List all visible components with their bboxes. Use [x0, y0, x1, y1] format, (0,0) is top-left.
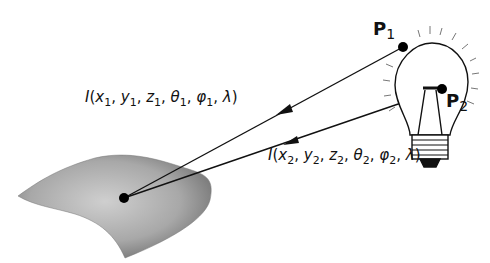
ray-1-label: I(x1, y1, z1, θ1, φ1, λ)	[85, 88, 238, 109]
point-p1	[398, 42, 408, 52]
surface-patch	[18, 155, 211, 258]
ray-2-label: I(x2, y2, z2, θ2, φ2, λ)	[268, 146, 421, 167]
surface-point	[119, 193, 129, 203]
diagram-canvas	[0, 0, 490, 263]
arrowhead-1	[276, 104, 293, 115]
label-p2: P2	[446, 90, 468, 114]
ray-1	[124, 47, 403, 198]
arrowhead-2	[283, 136, 299, 145]
label-p1: P1	[373, 18, 395, 42]
